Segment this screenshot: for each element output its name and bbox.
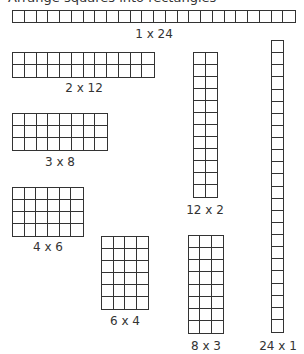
grid-cell xyxy=(212,309,223,321)
grid-cell xyxy=(84,11,96,22)
grid-cell xyxy=(189,236,200,248)
grid-cell xyxy=(137,237,149,249)
grid-cell xyxy=(37,114,49,126)
grid-cell xyxy=(272,211,283,223)
grid-cell xyxy=(60,212,72,224)
grid-cell xyxy=(84,138,96,150)
grid-cell xyxy=(272,114,283,126)
grid-cell xyxy=(142,11,154,22)
grid-cell xyxy=(37,126,49,138)
grid-cell xyxy=(206,89,218,101)
grid-cell xyxy=(13,65,25,77)
grid-cell xyxy=(48,200,60,212)
grid-cell xyxy=(25,11,37,22)
grid-cell xyxy=(272,296,283,308)
grid-cell xyxy=(189,285,200,297)
grid-cell xyxy=(13,114,25,126)
grid-cell xyxy=(36,200,48,212)
grid-cell xyxy=(272,235,283,247)
grid-cell xyxy=(25,188,37,200)
grid-cell xyxy=(37,138,49,150)
grid-cell xyxy=(200,309,211,321)
grid-cell xyxy=(13,53,25,65)
grid-cell xyxy=(36,224,48,236)
grid-cell xyxy=(48,53,60,65)
grid-cell xyxy=(71,200,83,212)
grid-cell xyxy=(283,11,295,22)
grid-cell xyxy=(48,138,60,150)
grid-cell xyxy=(194,137,206,149)
grid-cell xyxy=(95,126,107,138)
grid-cell xyxy=(154,11,166,22)
grid-cell xyxy=(13,138,25,150)
grid-cell xyxy=(206,149,218,161)
grid-cell xyxy=(48,212,60,224)
grid-cell xyxy=(48,224,60,236)
grid-cell xyxy=(102,237,114,249)
grid-cell xyxy=(272,320,283,332)
grid-cell xyxy=(194,185,206,197)
grid-cell xyxy=(189,272,200,284)
grid-cell xyxy=(60,224,72,236)
grid-cell xyxy=(272,65,283,77)
array-label-3x8: 3 x 8 xyxy=(45,155,75,169)
grid-cell xyxy=(212,297,223,309)
grid-cell xyxy=(194,149,206,161)
grid-cell xyxy=(72,114,84,126)
grid-cell xyxy=(13,200,25,212)
grid-cell xyxy=(95,114,107,126)
grid-cell xyxy=(189,309,200,321)
grid-cell xyxy=(60,126,72,138)
grid-cell xyxy=(200,260,211,272)
grid-cell xyxy=(272,90,283,102)
grid-cell xyxy=(189,260,200,272)
grid-cell xyxy=(37,65,49,77)
grid-cell xyxy=(71,188,83,200)
grid-cell xyxy=(102,297,114,309)
grid-cell xyxy=(272,247,283,259)
grid-cell xyxy=(137,273,149,285)
grid-cell xyxy=(212,285,223,297)
grid-cell xyxy=(107,11,119,22)
grid-cell xyxy=(272,162,283,174)
grid-cell xyxy=(236,11,248,22)
grid-cell xyxy=(25,224,37,236)
grid-cell xyxy=(25,200,37,212)
grid-cell xyxy=(60,114,72,126)
grid-cell xyxy=(37,11,49,22)
grid-cell xyxy=(84,114,96,126)
grid-cell xyxy=(84,65,96,77)
grid-cell xyxy=(72,53,84,65)
grid-cell xyxy=(272,187,283,199)
grid-cell xyxy=(206,185,218,197)
grid-cell xyxy=(194,125,206,137)
grid-cell xyxy=(102,273,114,285)
grid-cell xyxy=(194,113,206,125)
grid-cell xyxy=(119,65,131,77)
grid-cell xyxy=(225,11,237,22)
grid-cell xyxy=(60,65,72,77)
grid-cell xyxy=(95,11,107,22)
grid-cell xyxy=(272,271,283,283)
grid-cell xyxy=(194,77,206,89)
grid-cell xyxy=(107,53,119,65)
array-grid-8x3 xyxy=(188,235,224,334)
grid-cell xyxy=(25,114,37,126)
array-label-24x1: 24 x 1 xyxy=(259,339,297,353)
grid-cell xyxy=(189,11,201,22)
grid-cell xyxy=(272,284,283,296)
grid-cell xyxy=(25,126,37,138)
grid-cell xyxy=(60,138,72,150)
grid-cell xyxy=(272,138,283,150)
array-grid-6x4 xyxy=(101,236,149,310)
grid-cell xyxy=(206,161,218,173)
array-grid-24x1 xyxy=(271,40,284,333)
grid-cell xyxy=(13,188,25,200)
grid-cell xyxy=(36,188,48,200)
grid-cell xyxy=(72,11,84,22)
grid-cell xyxy=(114,297,126,309)
grid-cell xyxy=(137,249,149,261)
grid-cell xyxy=(48,126,60,138)
grid-cell xyxy=(206,77,218,89)
grid-cell xyxy=(272,53,283,65)
